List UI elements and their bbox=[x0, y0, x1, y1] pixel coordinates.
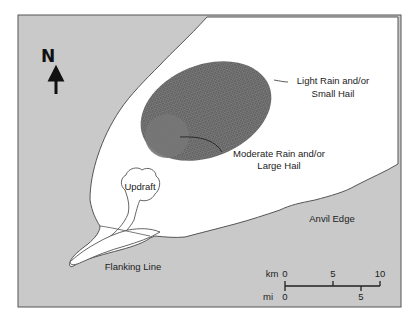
storm-diagram: N Light Rain and/or Small Hail Moderate … bbox=[0, 0, 416, 322]
moderate-rain-label-1: Moderate Rain and/or bbox=[233, 148, 325, 159]
moderate-rain-area bbox=[145, 114, 189, 158]
scale-km-0: 0 bbox=[282, 268, 287, 279]
flanking-line-label: Flanking Line bbox=[105, 261, 162, 272]
north-label: N bbox=[41, 46, 55, 66]
scale-mi-label: mi bbox=[263, 291, 273, 302]
updraft-label: Updraft bbox=[124, 181, 156, 192]
scale-mi-0: 0 bbox=[282, 291, 287, 302]
moderate-rain-label-2: Large Hail bbox=[257, 160, 300, 171]
scale-mi-5: 5 bbox=[358, 291, 363, 302]
anvil-edge-label: Anvil Edge bbox=[309, 213, 354, 224]
scale-km-label: km bbox=[266, 268, 279, 279]
scale-km-10: 10 bbox=[375, 268, 386, 279]
light-rain-label-2: Small Hail bbox=[312, 88, 355, 99]
light-rain-label-1: Light Rain and/or bbox=[297, 75, 369, 86]
scale-km-5: 5 bbox=[330, 268, 335, 279]
